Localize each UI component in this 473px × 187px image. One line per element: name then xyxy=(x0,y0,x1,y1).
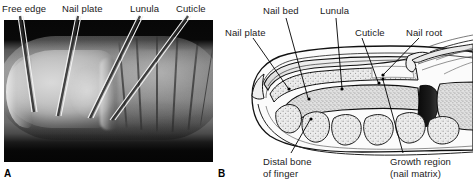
label-cuticle-a: Cuticle xyxy=(176,4,206,15)
label-free-edge-a: Free edge xyxy=(2,4,46,15)
label-nail-root-b: Nail root xyxy=(406,28,442,39)
label-growth-region-line2: (nail matrix) xyxy=(390,169,441,180)
label-lunula-b: Lunula xyxy=(320,6,349,17)
panel-a-letter: A xyxy=(4,168,11,179)
fat-lobule xyxy=(302,112,330,142)
label-distal-bone-line2: of finger xyxy=(263,169,298,180)
panel-a-photograph xyxy=(4,20,213,162)
label-distal-bone-line1: Distal bone xyxy=(263,157,312,168)
fat-lobule xyxy=(396,113,426,144)
fat-lobule xyxy=(428,117,459,144)
label-cuticle-b: Cuticle xyxy=(355,28,385,39)
fat-lobule xyxy=(332,115,362,146)
label-nail-plate-a: Nail plate xyxy=(62,4,103,15)
skin-crease xyxy=(156,36,158,132)
panel-b-letter: B xyxy=(218,168,225,179)
label-lunula-a: Lunula xyxy=(130,4,159,15)
label-nail-plate-b: Nail plate xyxy=(225,28,266,39)
fat-lobule xyxy=(364,115,394,146)
label-nail-bed-b: Nail bed xyxy=(263,6,299,17)
label-growth-region-line1: Growth region xyxy=(390,157,451,168)
skin-highlight xyxy=(116,50,213,122)
figure-container: A Free edge Nail plate Lunula Cuticle xyxy=(0,0,473,187)
